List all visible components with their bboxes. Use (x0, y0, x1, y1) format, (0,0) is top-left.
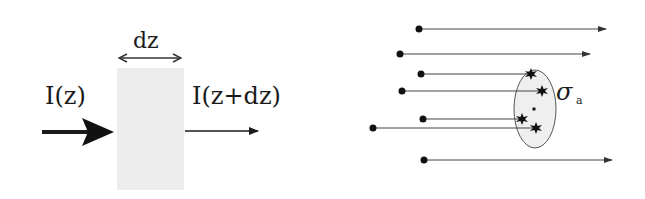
cross-section-panel: σ a (370, 26, 613, 164)
sigma-subscript: a (576, 94, 583, 107)
dz-label: dz (133, 28, 159, 53)
incident-intensity-label: I(z) (45, 82, 86, 110)
diagram-canvas: dz I(z) I(z+dz) (0, 0, 645, 199)
particle-track (416, 26, 607, 33)
transmitted-intensity-label: I(z+dz) (192, 82, 281, 110)
slab (117, 68, 184, 190)
sigma-symbol: σ (556, 78, 573, 106)
particle-track-absorbed (420, 113, 529, 125)
incident-beam-arrow (42, 118, 114, 146)
particle-track (421, 157, 613, 164)
particle-track (397, 51, 591, 58)
attenuation-slab-panel: dz I(z) I(z+dz) (42, 28, 281, 190)
target-nucleus (532, 107, 536, 111)
particle-track-absorbed (418, 68, 538, 80)
